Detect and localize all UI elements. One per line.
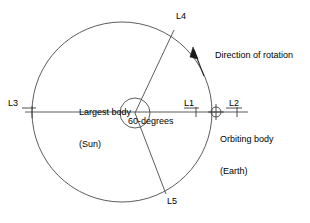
diagram-canvas: L3 L1 L2 L4 L5 Largest body (Sun) Orbiti… <box>0 0 310 223</box>
label-largest-body-line2: (Sun) <box>79 139 131 150</box>
sun-to-l4-line <box>135 30 174 113</box>
label-direction-of-rotation: Direction of rotation <box>215 50 293 61</box>
label-l1: L1 <box>184 98 194 109</box>
label-l5: L5 <box>167 196 177 207</box>
label-l2: L2 <box>229 98 239 109</box>
label-largest-body: Largest body (Sun) <box>79 86 131 170</box>
label-l3: L3 <box>8 98 18 109</box>
label-orbiting-body: Orbiting body (Earth) <box>220 113 274 197</box>
label-angle-60-degrees: 60-degrees <box>128 116 174 127</box>
label-orbiting-body-line1: Orbiting body <box>220 134 274 145</box>
rotation-arrow-head <box>190 47 198 59</box>
label-largest-body-line1: Largest body <box>79 107 131 118</box>
label-l4: L4 <box>176 11 186 22</box>
label-orbiting-body-line2: (Earth) <box>220 166 274 177</box>
